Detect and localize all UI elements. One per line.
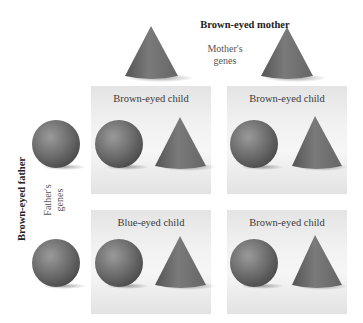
mother-cone-icon-2 [261,27,327,82]
child-cone-icon [155,117,216,171]
mother-genes-line2: genes [190,55,260,67]
father-genes-line1: Father's [42,168,54,232]
father-sphere-icon-2 [32,239,86,289]
father-title: Brown-eyed father [16,154,27,244]
mother-title: Brown-eyed mother [175,19,315,30]
child-cone-icon [292,235,348,290]
mother-genes-line1: Mother's [190,43,260,55]
child-cone-icon [155,236,216,290]
child-cone-icon [292,116,348,171]
mother-cone-icon-1 [125,26,194,82]
shapes-layer [0,0,363,323]
father-sphere-icon-1 [32,120,86,170]
child-sphere-icon [230,120,284,170]
father-genes-line2: genes [54,168,66,232]
mother-genes-label: Mother's genes [190,43,260,67]
child-sphere-icon [95,120,149,170]
father-genes-label: Father's genes [42,168,66,232]
child-sphere-icon [95,239,149,289]
child-sphere-icon [230,239,284,289]
